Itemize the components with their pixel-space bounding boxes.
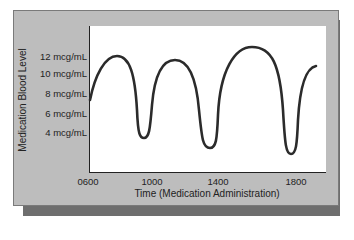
y-tick-8: 8 mcg/mL (45, 88, 87, 99)
y-tick-6: 6 mcg/mL (45, 108, 87, 119)
y-tick-4: 4 mcg/mL (45, 127, 87, 138)
y-axis-label: Medication Blood Level (17, 48, 28, 151)
x-tick-1800: 1800 (285, 176, 306, 187)
x-axis-label: Time (Medication Administration) (134, 188, 279, 199)
y-tick-12: 12 mcg/mL (40, 51, 87, 62)
x-tick-0600: 0600 (77, 176, 98, 187)
x-tick-1400: 1400 (207, 176, 228, 187)
y-tick-10: 10 mcg/mL (40, 68, 87, 79)
x-tick-1000: 1000 (141, 176, 162, 187)
